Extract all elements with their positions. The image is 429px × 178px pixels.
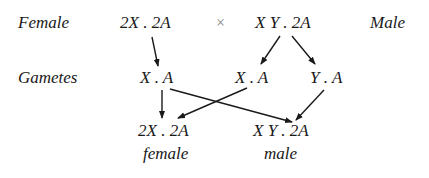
arrow-male-to-y-gamete xyxy=(292,36,315,64)
arrow-female-to-gamete xyxy=(152,37,158,66)
cross-arrows xyxy=(0,0,429,178)
arrow-x-gamete-to-female xyxy=(178,88,247,118)
arrow-y-gamete-to-male xyxy=(296,90,324,120)
arrow-female-gamete-to-male xyxy=(170,89,292,122)
arrow-male-to-x-gamete xyxy=(261,36,280,64)
